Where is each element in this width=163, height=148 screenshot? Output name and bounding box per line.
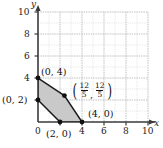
fraction-y-numerator: 12 [94,82,106,90]
paren-open: ( [72,84,77,97]
annotation-0-4: (0, 4) [41,67,67,77]
fraction-y: 12 5 [94,82,106,99]
paren-close: ) [107,84,112,97]
annotation-2-0: (2, 0) [46,129,72,139]
y-axis-arrow [35,5,40,11]
x-tick-label-4: 4 [79,127,85,136]
x-tick-label-8: 8 [123,127,129,136]
y-tick-label-6: 6 [24,52,30,61]
coordinate-plot-figure: 10 8 6 4 0 4 6 8 10 y x (0, 4) (0, 2) (2… [0,0,163,148]
x-tick-label-0: 0 [35,127,41,136]
x-tick-label-6: 6 [101,127,107,136]
y-axis-name: y [31,0,36,9]
vertex-4-0 [80,120,85,125]
vertex-2-0 [58,120,63,125]
y-tick-label-10: 10 [18,8,29,17]
annotation-12over5-12over5: ( 12 5 , 12 5 ) [71,82,113,99]
y-tick-label-8: 8 [24,30,30,39]
vertex-12over5-12over5 [62,93,67,98]
fraction-y-denominator: 5 [96,90,103,99]
y-tick-label-4: 4 [24,74,30,83]
annotation-4-0: (4, 0) [88,109,114,119]
x-axis-name: x [154,119,159,128]
fraction-x-denominator: 5 [81,90,88,99]
x-tick-label-10: 10 [142,127,153,136]
vertex-0-2 [36,98,41,103]
annotation-0-2: (0, 2) [2,95,28,105]
fraction-x-numerator: 12 [78,82,90,90]
vertex-0-4 [36,76,41,81]
fraction-x: 12 5 [78,82,90,99]
